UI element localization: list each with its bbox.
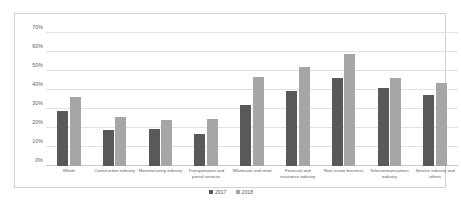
x-axis-category-label: Financial and insurance industry [275, 168, 321, 190]
legend-item-2017[interactable]: 2017 [209, 189, 227, 195]
plot-area: 70%60%50%40%30%20%10%0% [46, 33, 458, 166]
x-axis-category-label: Construction industry [92, 168, 138, 190]
bar-2018[interactable] [344, 54, 355, 166]
y-axis-tick-label: 20% [32, 119, 43, 125]
bar-2017[interactable] [103, 130, 114, 166]
y-axis-tick-label: 30% [32, 100, 43, 106]
legend-label-2018: 2018 [242, 189, 254, 195]
bar-2018[interactable] [253, 77, 264, 166]
y-axis-tick-label: 10% [32, 138, 43, 144]
x-axis-category-label: Transportation and postal services [183, 168, 229, 190]
bar-group [275, 33, 321, 166]
bar-group [183, 33, 229, 166]
x-axis-category-label: Real estate business [321, 168, 367, 190]
x-axis-category-label: Whole [46, 168, 92, 190]
bar-2017[interactable] [57, 111, 68, 166]
legend-swatch-2017 [209, 190, 213, 194]
chart-legend: 2017 2018 [15, 189, 447, 195]
y-axis-tick-label: 40% [32, 81, 43, 87]
bar-2017[interactable] [332, 78, 343, 166]
bar-group [412, 33, 458, 166]
bar-2017[interactable] [240, 105, 251, 166]
bar-2018[interactable] [390, 78, 401, 166]
x-axis-category-label: Wholesale and retail [229, 168, 275, 190]
bar-2018[interactable] [207, 119, 218, 166]
bar-2018[interactable] [299, 67, 310, 166]
x-axis-category-label: Telecommunications industry [366, 168, 412, 190]
chart-container: 70%60%50%40%30%20%10%0% WholeConstructio… [14, 13, 446, 188]
y-axis-tick-label: 0% [35, 157, 43, 163]
bar-series-layer [46, 33, 458, 166]
legend-item-2018[interactable]: 2018 [236, 189, 254, 195]
bar-group [229, 33, 275, 166]
bar-group [46, 33, 92, 166]
bar-2018[interactable] [161, 120, 172, 166]
bar-2018[interactable] [436, 83, 447, 166]
x-axis-category-label: Service industry and others [412, 168, 458, 190]
bar-group [138, 33, 184, 166]
bar-group [366, 33, 412, 166]
x-axis-category-label: Manufacturing industry [138, 168, 184, 190]
bar-2017[interactable] [194, 134, 205, 166]
legend-label-2017: 2017 [215, 189, 227, 195]
bar-2018[interactable] [70, 97, 81, 166]
bar-2018[interactable] [115, 117, 126, 166]
x-axis-category-labels: WholeConstruction industryManufacturing … [46, 168, 458, 190]
bar-2017[interactable] [378, 88, 389, 166]
bar-2017[interactable] [149, 129, 160, 166]
bar-group [321, 33, 367, 166]
y-axis-tick-label: 50% [32, 62, 43, 68]
bar-group [92, 33, 138, 166]
legend-swatch-2018 [236, 190, 240, 194]
y-axis-tick-label: 60% [32, 43, 43, 49]
y-axis-tick-label: 70% [32, 24, 43, 30]
bar-2017[interactable] [423, 95, 434, 166]
bar-2017[interactable] [286, 91, 297, 166]
